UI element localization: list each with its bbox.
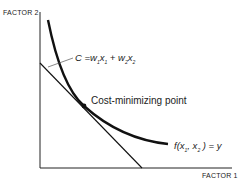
diagram-graphics (0, 0, 241, 187)
isoquant-curve (48, 20, 168, 144)
y-axis-label: FACTOR 2 (3, 9, 39, 16)
isoquant-equation: f(x1, x2 ) = y (174, 140, 222, 153)
cost-minimizing-point-marker (82, 104, 87, 109)
x-axis-label: FACTOR 1 (202, 172, 238, 179)
cost-minimizing-point-label: Cost-minimizing point (91, 95, 187, 106)
diagram: FACTOR 2 FACTOR 1 C =w1x1 + w2x2 Cost-mi… (0, 0, 241, 187)
isocost-eq-text: C =w (75, 52, 97, 63)
isocost-line (40, 63, 142, 168)
isocost-equation: C =w1x1 + w2x2 (75, 52, 135, 65)
isoquant-eq-text: f(x (174, 140, 185, 151)
